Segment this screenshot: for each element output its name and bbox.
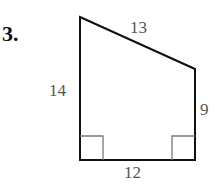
- trapezoid-figure: 13 14 9 12: [0, 0, 217, 186]
- label-top-slant: 13: [130, 18, 147, 37]
- trapezoid-outline: [80, 17, 195, 160]
- right-angle-marker-bottom-right: [172, 136, 195, 160]
- label-bottom-side: 12: [124, 163, 141, 182]
- label-right-side: 9: [200, 100, 209, 119]
- label-left-side: 14: [49, 81, 67, 100]
- right-angle-marker-bottom-left: [80, 136, 103, 160]
